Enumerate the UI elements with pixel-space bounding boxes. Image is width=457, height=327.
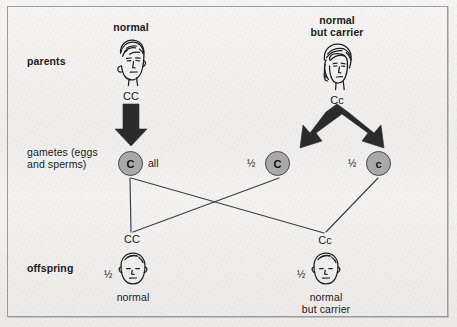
genetics-inheritance-diagram: parents gametes (eggs and sperms) offspr… xyxy=(0,0,457,327)
offspring-right-proportion: ½ xyxy=(297,269,305,280)
offspring-right-caption: normal but carrier xyxy=(288,292,364,316)
line-gamete-left-to-offspring-left xyxy=(130,178,131,232)
offspring-left-caption: normal xyxy=(103,292,163,304)
offspring-right-genotype: Cc xyxy=(305,234,345,246)
offspring-left-genotype: CC xyxy=(112,233,152,245)
baby-head-icon xyxy=(309,250,343,290)
baby-head-icon xyxy=(116,250,150,290)
offspring-left-proportion: ½ xyxy=(104,269,112,280)
cross-lines-layer xyxy=(0,0,457,327)
line-gamete-right-to-offspring-right xyxy=(326,178,378,232)
line-gamete-left-to-offspring-right xyxy=(131,178,324,233)
line-gamete-mid-to-offspring-left xyxy=(133,178,279,232)
